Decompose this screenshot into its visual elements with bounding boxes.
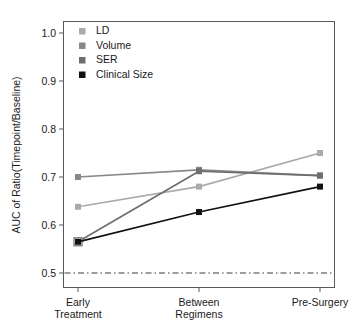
- legend-swatch-ld: [79, 28, 86, 35]
- legend-swatch-ser: [79, 57, 86, 64]
- x-axis-ticks: [78, 288, 320, 293]
- data-point-marker: [317, 173, 323, 179]
- legend-swatch-clinical-size: [79, 72, 86, 79]
- x-axis-labels: EarlyTreatmentBetweenRegimensPre-Surgery: [54, 296, 349, 320]
- legend-label-ld: LD: [96, 24, 110, 36]
- data-point-marker: [75, 174, 81, 180]
- data-point-marker: [317, 184, 323, 190]
- legend-swatch-volume: [79, 43, 86, 50]
- legend-label-ser: SER: [96, 53, 118, 65]
- y-tick-label: 0.9: [41, 75, 56, 87]
- data-point-marker: [75, 204, 81, 210]
- data-point-marker: [196, 168, 202, 174]
- x-axis-category-label: BetweenRegimens: [175, 296, 222, 320]
- y-axis-ticks: 0.50.60.70.80.91.0: [41, 27, 63, 279]
- data-point-marker: [196, 184, 202, 190]
- y-tick-label: 0.6: [41, 219, 56, 231]
- y-tick-label: 1.0: [41, 27, 56, 39]
- y-tick-label: 0.8: [41, 123, 56, 135]
- x-axis-category-label: Pre-Surgery: [292, 296, 349, 308]
- legend-label-clinical-size: Clinical Size: [96, 68, 153, 80]
- y-axis-title: AUC of Ratio(Timepoint/Baseline): [10, 76, 22, 233]
- y-tick-label: 0.5: [41, 267, 56, 279]
- data-point-marker: [196, 209, 202, 215]
- chart-figure: AUC of Ratio(Timepoint/Baseline) 0.50.60…: [0, 0, 358, 333]
- data-point-marker: [75, 239, 81, 245]
- series-ld: [75, 150, 323, 210]
- y-tick-label: 0.7: [41, 171, 56, 183]
- legend-label-volume: Volume: [96, 39, 131, 51]
- series-group: [74, 150, 323, 246]
- data-point-marker: [317, 150, 323, 156]
- line-chart: AUC of Ratio(Timepoint/Baseline) 0.50.60…: [0, 0, 358, 333]
- x-axis-category-label: EarlyTreatment: [54, 296, 102, 320]
- chart-legend: LDVolumeSERClinical Size: [79, 24, 153, 79]
- series-clinical-size: [75, 184, 323, 245]
